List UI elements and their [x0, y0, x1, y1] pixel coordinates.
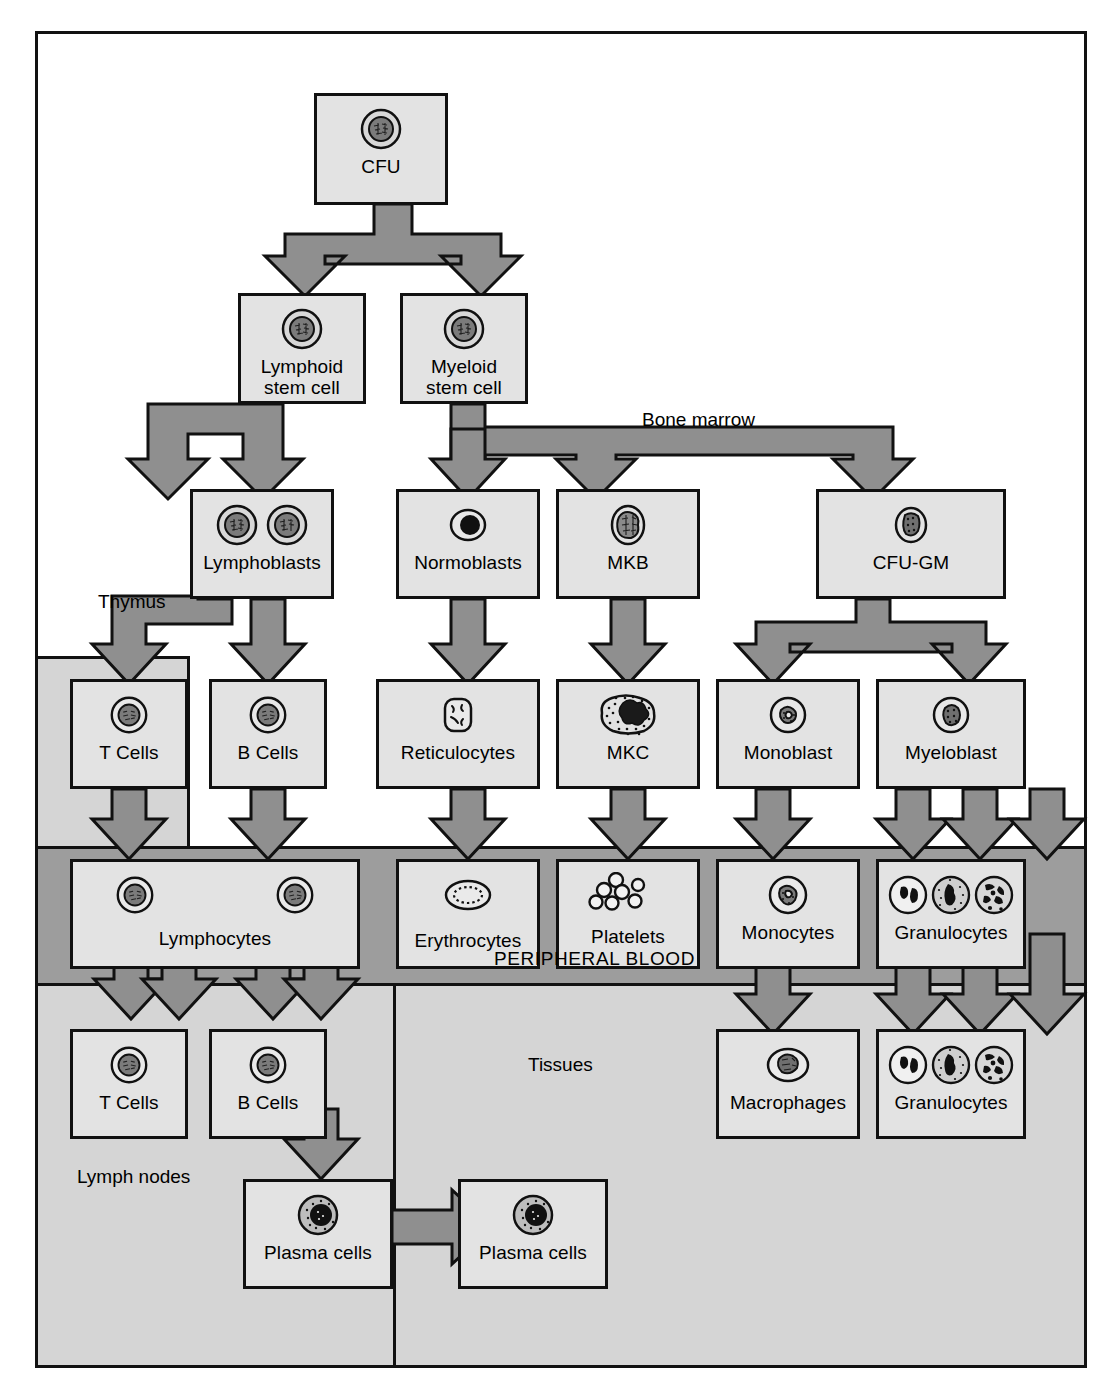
node-label: B Cells — [238, 1093, 299, 1114]
cell-icons — [440, 869, 496, 921]
stem-cell-icon — [279, 306, 325, 352]
arrow-tcells-to-lymphocytes — [92, 789, 166, 859]
node-label: T Cells — [99, 1093, 158, 1114]
node-myeloblast[interactable]: Myeloblast — [876, 679, 1026, 789]
node-monoblast[interactable]: Monoblast — [716, 679, 860, 789]
platelet-icon — [588, 872, 668, 918]
node-t-cells-marrow[interactable]: T Cells — [70, 679, 188, 789]
node-label: Monoblast — [744, 743, 833, 764]
node-mkc[interactable]: MKC — [556, 679, 700, 789]
granulocyte-icon — [973, 874, 1015, 916]
node-label: Lymphoblasts — [203, 553, 321, 574]
lymphocyte-icon — [273, 873, 317, 917]
node-lymphoid-stem-cell[interactable]: Lymphoid stem cell — [238, 293, 366, 404]
cell-icons — [888, 499, 934, 551]
lymphocyte-icon — [113, 873, 157, 917]
cell-icons — [887, 1039, 1015, 1091]
node-lymphoblasts[interactable]: Lymphoblasts — [190, 489, 334, 599]
node-label: MKC — [607, 743, 650, 764]
arrow-normoblasts-to-reticulocytes — [431, 599, 505, 684]
node-label: CFU — [361, 157, 400, 178]
monoblast-icon — [765, 692, 811, 738]
node-label: Lymphoid stem cell — [261, 357, 343, 398]
erythrocyte-icon — [440, 874, 496, 916]
arrow-reticulocytes-to-erythrocytes — [431, 789, 505, 859]
arrow-mkc-to-platelets — [591, 789, 665, 859]
granulocyte-icon — [887, 874, 929, 916]
cfu-gm-icon — [888, 501, 934, 549]
cell-icons — [509, 1189, 557, 1241]
node-label: Myeloid stem cell — [426, 357, 502, 398]
node-label: Plasma cells — [479, 1243, 587, 1264]
lymphoblast-icon — [214, 502, 260, 548]
label-lymph-nodes: Lymph nodes — [77, 1166, 190, 1188]
granulocyte-icon — [930, 874, 972, 916]
granulocyte-icon — [930, 1044, 972, 1086]
node-granulocytes-tissue[interactable]: Granulocytes — [876, 1029, 1026, 1139]
cell-icons — [445, 499, 491, 551]
node-mkb[interactable]: MKB — [556, 489, 700, 599]
node-plasma-cells-lymph[interactable]: Plasma cells — [243, 1179, 393, 1289]
cell-icons — [294, 1189, 342, 1241]
arrow-monoblast-to-monocytes — [736, 789, 810, 859]
t-cell-icon — [107, 693, 151, 737]
macrophage-icon — [762, 1042, 814, 1088]
cell-icons — [246, 689, 290, 741]
megakaryoblast-icon — [605, 501, 651, 549]
lymphoblast-icon — [264, 502, 310, 548]
cell-icons — [441, 303, 487, 355]
cell-icons — [765, 689, 811, 741]
granulocyte-icon — [973, 1044, 1015, 1086]
arrow-lymphoid-to-lymphoblasts — [128, 404, 303, 499]
node-reticulocytes[interactable]: Reticulocytes — [376, 679, 540, 789]
node-myeloid-stem-cell[interactable]: Myeloid stem cell — [400, 293, 528, 404]
cell-icons — [436, 689, 480, 741]
node-label: Macrophages — [730, 1093, 846, 1114]
cell-icons — [605, 499, 651, 551]
label-bone-marrow: Bone marrow — [642, 409, 755, 431]
monocyte-icon — [764, 872, 812, 918]
node-b-cells-tissue[interactable]: B Cells — [209, 1029, 327, 1139]
node-label: Monocytes — [742, 923, 835, 944]
node-cfu-gm[interactable]: CFU-GM — [816, 489, 1006, 599]
cell-icons — [588, 869, 668, 921]
t-cell-icon — [107, 1043, 151, 1087]
node-label: T Cells — [99, 743, 158, 764]
arrow-lymphoblasts-to-bcells — [231, 599, 305, 684]
cell-icons — [592, 689, 664, 741]
arrow-mkb-to-mkc — [591, 599, 665, 684]
plasma-cell-icon — [509, 1191, 557, 1239]
reticulocyte-icon — [436, 691, 480, 739]
node-granulocytes-blood[interactable]: Granulocytes — [876, 859, 1026, 969]
node-b-cells-marrow[interactable]: B Cells — [209, 679, 327, 789]
cell-icons — [764, 869, 812, 921]
cell-icons — [214, 499, 310, 551]
normoblast-icon — [445, 502, 491, 548]
node-t-cells-tissue[interactable]: T Cells — [70, 1029, 188, 1139]
stem-cell-icon — [441, 306, 487, 352]
node-normoblasts[interactable]: Normoblasts — [396, 489, 540, 599]
megakaryocyte-icon — [592, 691, 664, 739]
cell-icons — [762, 1039, 814, 1091]
cell-icons — [113, 869, 317, 921]
arrow-myeloblast-to-granulocytes-1 — [876, 789, 950, 859]
arrow-cfu-split — [265, 204, 521, 296]
diagram-frame: Bone marrow Thymus PERIPHERAL BLOOD Tiss… — [35, 31, 1087, 1368]
node-monocytes[interactable]: Monocytes — [716, 859, 860, 969]
node-label: Granulocytes — [894, 923, 1007, 944]
node-cfu[interactable]: CFU — [314, 93, 448, 205]
myeloblast-icon — [928, 692, 974, 738]
arrow-bcells-to-lymphocytes — [231, 789, 305, 859]
hematopoiesis-diagram: Bone marrow Thymus PERIPHERAL BLOOD Tiss… — [0, 0, 1118, 1390]
arrow-myeloblast-to-granulocytes-3 — [1010, 789, 1084, 859]
node-label: Myeloblast — [905, 743, 997, 764]
node-lymphocytes[interactable]: Lymphocytes — [70, 859, 360, 969]
node-label: Reticulocytes — [401, 743, 515, 764]
label-peripheral-blood: PERIPHERAL BLOOD — [494, 948, 695, 970]
node-label: B Cells — [238, 743, 299, 764]
node-plasma-cells-tissue[interactable]: Plasma cells — [458, 1179, 608, 1289]
node-macrophages[interactable]: Macrophages — [716, 1029, 860, 1139]
node-label: Plasma cells — [264, 1243, 372, 1264]
node-label: Lymphocytes — [159, 929, 271, 950]
arrow-cfugm-split — [736, 599, 1006, 684]
